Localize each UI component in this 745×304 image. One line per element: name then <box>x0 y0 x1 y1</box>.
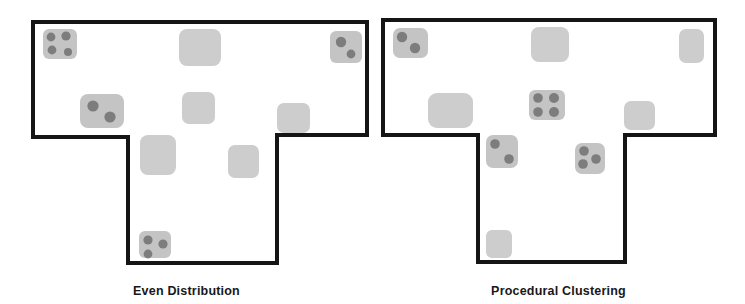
agent-dot <box>347 50 356 59</box>
rooms-layer-left <box>43 29 362 258</box>
agent-dot <box>48 46 57 55</box>
agent-dot <box>490 139 500 149</box>
agent-dot <box>578 159 588 169</box>
agent-dot <box>104 111 115 122</box>
rooms-layer-right <box>393 27 704 258</box>
room[interactable] <box>139 231 171 258</box>
agent-dot <box>410 43 420 53</box>
caption-even-distribution: Even Distribution <box>0 284 373 298</box>
agent-dot <box>533 107 543 117</box>
room-rect <box>330 31 362 63</box>
room-rect <box>531 27 569 62</box>
agent-dot <box>504 154 514 164</box>
room[interactable] <box>529 90 565 120</box>
floorplan-procedural-clustering <box>372 0 745 304</box>
room[interactable] <box>140 135 176 175</box>
agent-dot <box>397 32 407 42</box>
agent-dot <box>533 93 543 103</box>
room[interactable] <box>679 29 704 63</box>
room-rect <box>529 90 565 120</box>
room[interactable] <box>393 28 428 58</box>
room-rect <box>486 135 518 168</box>
room[interactable] <box>43 29 77 59</box>
room[interactable] <box>80 94 124 128</box>
room-rect <box>182 92 215 124</box>
agent-dot <box>591 154 601 164</box>
panel-procedural-clustering: Procedural Clustering <box>372 0 745 304</box>
agent-dot <box>87 100 98 111</box>
agent-dot <box>549 107 559 117</box>
room[interactable] <box>428 93 473 128</box>
room-rect <box>179 29 221 66</box>
room-rect <box>624 101 655 130</box>
room-rect <box>679 29 704 63</box>
agent-dot <box>143 235 152 244</box>
room-rect <box>486 230 512 258</box>
caption-procedural-clustering: Procedural Clustering <box>372 284 745 298</box>
room-rect <box>228 145 259 178</box>
agent-dot <box>64 48 72 56</box>
room-rect <box>428 93 473 128</box>
panel-even-distribution: Even Distribution <box>0 0 373 304</box>
agent-dot <box>549 93 559 103</box>
room-rect <box>393 28 428 58</box>
agent-dot <box>144 250 153 259</box>
room[interactable] <box>624 101 655 130</box>
room[interactable] <box>486 230 512 258</box>
room-rect <box>140 135 176 175</box>
room[interactable] <box>182 92 215 124</box>
agent-dot <box>579 146 589 156</box>
figure-container: Even Distribution Procedural Clustering <box>0 0 745 304</box>
agent-dot <box>47 33 56 42</box>
room-rect <box>43 29 77 59</box>
room[interactable] <box>575 143 605 174</box>
room[interactable] <box>179 29 221 66</box>
room[interactable] <box>531 27 569 62</box>
room[interactable] <box>330 31 362 63</box>
room[interactable] <box>486 135 518 168</box>
room-rect <box>277 103 310 133</box>
agent-dot <box>158 239 167 248</box>
room-rect <box>80 94 124 128</box>
room[interactable] <box>277 103 310 133</box>
room[interactable] <box>228 145 259 178</box>
floorplan-even-distribution <box>0 0 373 304</box>
agent-dot <box>61 31 70 40</box>
agent-dot <box>336 37 346 47</box>
